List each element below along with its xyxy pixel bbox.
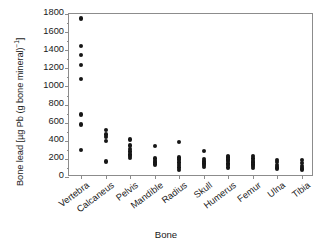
y-axis-tick-labels: 020040060080010001200140016001800 [28, 0, 64, 188]
y-axis-minor-tick [67, 114, 70, 115]
y-axis-minor-tick [67, 41, 70, 42]
x-axis-tick-labels: VertebraCalcaneusPelvisMandibleRadiusSku… [68, 176, 313, 226]
y-axis-title-wrap: Bone lead [µg Pb (g bone mineral)−1] [0, 0, 20, 188]
data-point [202, 165, 206, 169]
y-axis-title-main: Bone lead [µg Pb (g bone mineral) [15, 48, 25, 187]
y-axis-minor-tick [67, 59, 70, 60]
data-point [251, 166, 255, 170]
y-axis-tick-label: 1800 [30, 8, 64, 17]
y-axis-minor-tick [67, 96, 70, 97]
data-point [177, 168, 181, 172]
y-axis-tick [65, 50, 69, 51]
y-axis-tick [65, 68, 69, 69]
data-point [153, 144, 157, 148]
plot-area [68, 13, 313, 176]
data-point [300, 167, 304, 171]
scatter-chart-figure: Bone lead [µg Pb (g bone mineral)−1] 020… [0, 0, 332, 250]
y-axis-minor-tick [67, 132, 70, 133]
data-point [275, 166, 279, 170]
y-axis-tick-label: 0 [30, 171, 64, 180]
data-point [79, 63, 83, 67]
data-point [104, 159, 108, 163]
data-point [79, 77, 83, 81]
data-point [128, 156, 132, 160]
y-axis-tick-label: 600 [30, 117, 64, 126]
y-axis-minor-tick [67, 23, 70, 24]
data-point [79, 53, 83, 57]
data-point [202, 149, 206, 153]
y-axis-tick [65, 123, 69, 124]
data-point [79, 112, 83, 116]
y-axis-tick [65, 32, 69, 33]
y-axis-tick [65, 86, 69, 87]
data-point [79, 148, 83, 152]
data-point [153, 162, 157, 166]
y-axis-tick-label: 800 [30, 99, 64, 108]
y-axis-minor-tick [67, 150, 70, 151]
data-point [104, 139, 108, 143]
y-axis-tick-label: 1200 [30, 63, 64, 72]
y-axis-minor-tick [67, 77, 70, 78]
y-axis-tick-label: 400 [30, 135, 64, 144]
data-point [128, 137, 132, 141]
data-point [79, 16, 83, 20]
y-axis-minor-tick [67, 168, 70, 169]
y-axis-tick [65, 105, 69, 106]
y-axis-tick-label: 200 [30, 153, 64, 162]
y-axis-tick [65, 159, 69, 160]
data-point [79, 44, 83, 48]
y-axis-title: Bone lead [µg Pb (g bone mineral)−1] [13, 38, 25, 186]
y-axis-tick [65, 14, 69, 15]
y-axis-tick-label: 1400 [30, 45, 64, 54]
data-point [79, 122, 83, 126]
y-axis-tick-label: 1600 [30, 27, 64, 36]
data-point [226, 165, 230, 169]
y-axis-tick-label: 1000 [30, 81, 64, 90]
x-axis-title: Bone [0, 229, 332, 240]
y-axis-title-tail: ] [15, 38, 25, 40]
y-axis-tick [65, 141, 69, 142]
data-point [177, 140, 181, 144]
y-axis-title-exponent: −1 [13, 40, 20, 47]
